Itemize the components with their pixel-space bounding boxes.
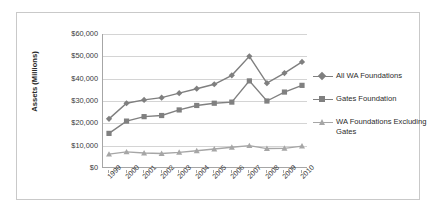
legend-marker-square-icon [313, 94, 333, 104]
legend-marker-triangle-icon [313, 117, 333, 127]
data-point [264, 98, 269, 103]
data-point [159, 95, 165, 101]
data-point [106, 131, 111, 136]
series-3 [106, 143, 305, 157]
chart-frame: Assets (Millions) $0$10,000$20,000$30,00… [16, 12, 420, 200]
series-line [109, 81, 302, 133]
data-point [177, 107, 182, 112]
legend-label: Gates Foundation [335, 94, 435, 104]
legend-item[interactable]: All WA Foundations [313, 71, 435, 81]
y-axis-tick-labels: $0$10,000$20,000$30,000$40,000$50,000$60… [53, 13, 98, 189]
y-tick-label: $10,000 [71, 142, 98, 150]
y-tick-label: $0 [90, 164, 98, 172]
data-point [299, 83, 304, 88]
legend-item[interactable]: Gates Foundation [313, 94, 435, 104]
y-tick-label: $50,000 [71, 52, 98, 60]
y-axis-title: Assets (Millions) [30, 42, 39, 122]
x-axis-tick-labels: 1999200020012002200320042005200620072008… [102, 170, 307, 204]
data-point [211, 81, 217, 87]
y-tick-label: $40,000 [71, 75, 98, 83]
legend-label: All WA Foundations [335, 71, 435, 81]
series-layer [103, 34, 308, 168]
chart-legend: All WA FoundationsGates FoundationWA Fou… [313, 71, 435, 150]
chart-container: Assets (Millions) $0$10,000$20,000$30,00… [0, 0, 436, 219]
data-point [124, 119, 129, 124]
series-1 [106, 53, 305, 122]
plot-area [102, 34, 307, 168]
data-point [212, 101, 217, 106]
data-point [159, 113, 164, 118]
y-tick-label: $30,000 [71, 97, 98, 105]
data-point [229, 100, 234, 105]
legend-marker [318, 71, 326, 79]
data-point [141, 97, 147, 103]
data-point [247, 78, 252, 83]
series-line [109, 56, 302, 119]
legend-marker-diamond-icon [313, 71, 333, 81]
y-tick-label: $60,000 [71, 30, 98, 38]
data-point [194, 103, 199, 108]
legend-marker [319, 119, 325, 125]
series-line [109, 146, 302, 154]
legend-label: WA Foundations Excluding Gates [335, 117, 435, 137]
y-tick-label: $20,000 [71, 119, 98, 127]
data-point [282, 89, 287, 94]
data-point [176, 90, 182, 96]
legend-marker [319, 96, 325, 102]
data-point [141, 114, 146, 119]
legend-item[interactable]: WA Foundations Excluding Gates [313, 117, 435, 137]
data-point [194, 86, 200, 92]
